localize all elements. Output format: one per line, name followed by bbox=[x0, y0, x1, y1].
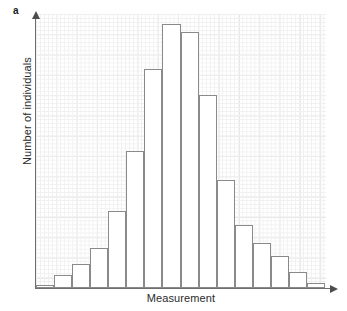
figure-panel-a: a Measurement Number of individuals bbox=[0, 0, 347, 311]
histogram-bar bbox=[253, 243, 271, 288]
histogram-bar bbox=[90, 248, 108, 288]
histogram-bar bbox=[289, 272, 307, 288]
histogram-bar bbox=[36, 285, 54, 288]
histogram-bars bbox=[0, 0, 347, 311]
histogram-bar bbox=[126, 151, 144, 288]
histogram-bar bbox=[307, 283, 325, 288]
histogram-bar bbox=[144, 69, 162, 288]
histogram-bar bbox=[162, 24, 180, 288]
histogram-bar bbox=[235, 225, 253, 288]
histogram-bar bbox=[271, 256, 289, 288]
histogram-bar bbox=[181, 32, 199, 288]
histogram-bar bbox=[54, 275, 72, 288]
x-axis-title: Measurement bbox=[36, 292, 326, 304]
histogram-bar bbox=[217, 180, 235, 288]
histogram-bar bbox=[199, 95, 217, 288]
y-axis-title: Number of individuals bbox=[21, 36, 33, 186]
histogram-bar bbox=[72, 264, 90, 288]
histogram-bar bbox=[108, 211, 126, 288]
